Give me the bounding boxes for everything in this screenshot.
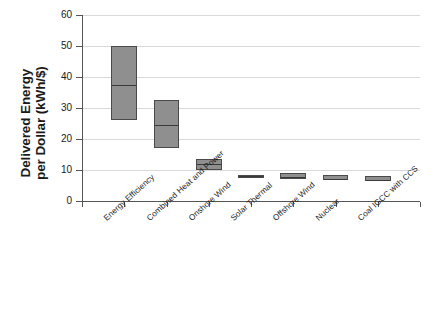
y-tick-label-40: 40: [32, 72, 72, 82]
gridline-20: [82, 139, 420, 140]
box-offshore-wind: [280, 173, 306, 179]
x-tick-8: [420, 202, 421, 207]
median-line: [281, 177, 305, 178]
y-tick-label-0: 0: [32, 196, 72, 206]
y-tick-label-30: 30: [32, 103, 72, 113]
box-solar-thermal: [238, 175, 264, 177]
y-tick-label-10: 10: [32, 165, 72, 175]
y-axis-line: [82, 15, 83, 202]
gridline-10: [82, 170, 420, 171]
x-label-combined-heat-and-power: Combined Heat and Power: [145, 149, 226, 223]
median-line: [366, 180, 390, 181]
box-coal-igcc-with-ccs: [365, 176, 391, 181]
box-combined-heat-and-power: [154, 100, 180, 148]
median-line: [239, 176, 263, 177]
plot-area: 0102030405060 Energy EfficiencyCombined …: [0, 0, 440, 309]
x-label-coal-igcc-with-ccs: Coal IGCC with CCS: [356, 164, 420, 223]
y-tick-label-60: 60: [32, 10, 72, 20]
chart-figure: Delivered Energy per Dollar (kWh/$) 0102…: [0, 0, 440, 309]
box-nuclear: [323, 175, 349, 180]
median-line: [112, 85, 136, 86]
box-energy-efficiency: [111, 46, 137, 120]
x-tick-0: [82, 202, 83, 207]
median-line: [324, 179, 348, 180]
gridline-60: [82, 15, 420, 16]
median-line: [155, 125, 179, 126]
y-tick-label-50: 50: [32, 41, 72, 51]
y-tick-label-20: 20: [32, 134, 72, 144]
